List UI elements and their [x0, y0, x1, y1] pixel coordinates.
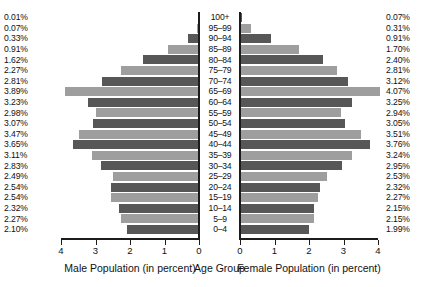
age-group-label-70–74: 70–74 — [199, 77, 241, 86]
center-axis-right — [239, 12, 241, 238]
age-group-label-5–9: 5–9 — [199, 215, 241, 224]
female-value-label-70–74: 3.12% — [386, 77, 410, 86]
female-axis-title: Female Population (in percent) — [199, 262, 419, 274]
bar-male-40–44 — [73, 140, 199, 149]
bar-male-15–19 — [111, 193, 199, 202]
bar-male-75–79 — [121, 66, 199, 75]
male-axis-tick-label-2: 2 — [123, 246, 137, 256]
male-value-label-95–99: 0.07% — [4, 24, 28, 33]
age-group-label-0–4: 0–4 — [199, 225, 241, 234]
bar-female-80–84 — [240, 55, 323, 64]
female-value-label-75–79: 2.81% — [386, 66, 410, 75]
bar-female-90–94 — [240, 34, 271, 43]
female-value-label-5–9: 2.15% — [386, 215, 410, 224]
bar-female-30–34 — [240, 161, 342, 170]
bar-female-60–64 — [240, 98, 352, 107]
bar-female-65–69 — [240, 87, 380, 96]
male-value-label-10–14: 2.32% — [4, 204, 28, 213]
bar-female-0–4 — [240, 225, 309, 234]
bar-female-25–29 — [240, 172, 327, 181]
bar-female-70–74 — [240, 77, 348, 86]
age-group-label-30–34: 30–34 — [199, 162, 241, 171]
age-group-label-100+: 100+ — [199, 13, 241, 22]
age-group-label-90–94: 90–94 — [199, 34, 241, 43]
bar-female-55–59 — [240, 108, 341, 117]
bar-female-20–24 — [240, 183, 320, 192]
bar-male-65–69 — [65, 87, 199, 96]
male-value-label-45–49: 3.47% — [4, 130, 28, 139]
bar-male-55–59 — [96, 108, 199, 117]
age-group-label-95–99: 95–99 — [199, 24, 241, 33]
bar-male-45–49 — [79, 130, 199, 139]
female-value-label-90–94: 0.91% — [386, 34, 410, 43]
male-axis-tick-label-4: 4 — [54, 246, 68, 256]
male-value-label-100+: 0.01% — [4, 13, 28, 22]
age-group-label-80–84: 80–84 — [199, 56, 241, 65]
bar-female-15–19 — [240, 193, 318, 202]
female-value-label-20–24: 2.32% — [386, 183, 410, 192]
age-group-label-45–49: 45–49 — [199, 130, 241, 139]
age-group-label-25–29: 25–29 — [199, 172, 241, 181]
male-value-label-60–64: 3.23% — [4, 98, 28, 107]
bar-male-80–84 — [143, 55, 199, 64]
age-group-label-50–54: 50–54 — [199, 119, 241, 128]
male-value-label-55–59: 2.98% — [4, 109, 28, 118]
age-group-label-10–14: 10–14 — [199, 204, 241, 213]
bar-male-20–24 — [111, 183, 199, 192]
bar-female-5–9 — [240, 214, 314, 223]
female-value-label-50–54: 3.05% — [386, 119, 410, 128]
male-value-label-5–9: 2.27% — [4, 215, 28, 224]
male-value-label-30–34: 2.83% — [4, 162, 28, 171]
bar-male-50–54 — [93, 119, 199, 128]
female-value-label-95–99: 0.31% — [386, 24, 410, 33]
bar-male-60–64 — [88, 98, 199, 107]
female-value-label-25–29: 2.53% — [386, 172, 410, 181]
female-value-label-0–4: 1.99% — [386, 225, 410, 234]
age-group-label-85–89: 85–89 — [199, 45, 241, 54]
center-axis-left — [198, 12, 200, 238]
male-value-label-65–69: 3.89% — [4, 87, 28, 96]
male-value-label-85–89: 0.91% — [4, 45, 28, 54]
male-value-label-25–29: 2.49% — [4, 172, 28, 181]
bar-female-50–54 — [240, 119, 345, 128]
bar-male-5–9 — [121, 214, 199, 223]
male-value-label-75–79: 2.27% — [4, 66, 28, 75]
bar-female-95–99 — [240, 24, 251, 33]
bar-male-70–74 — [102, 77, 199, 86]
bar-male-0–4 — [127, 225, 199, 234]
male-value-label-0–4: 2.10% — [4, 225, 28, 234]
male-value-label-40–44: 3.65% — [4, 140, 28, 149]
bar-female-45–49 — [240, 130, 361, 139]
bar-female-75–79 — [240, 66, 337, 75]
female-axis-tick-label-2: 2 — [302, 246, 316, 256]
female-axis-tick-label-4: 4 — [371, 246, 385, 256]
male-axis-tick-label-0: 0 — [192, 246, 206, 256]
age-group-label-15–19: 15–19 — [199, 193, 241, 202]
male-axis-tick-label-3: 3 — [89, 246, 103, 256]
bar-female-85–89 — [240, 45, 299, 54]
bar-male-85–89 — [168, 45, 199, 54]
age-group-label-35–39: 35–39 — [199, 151, 241, 160]
female-value-label-85–89: 1.70% — [386, 45, 410, 54]
female-value-label-80–84: 2.40% — [386, 56, 410, 65]
female-axis-tick-label-0: 0 — [233, 246, 247, 256]
age-group-label-55–59: 55–59 — [199, 109, 241, 118]
male-value-label-50–54: 3.07% — [4, 119, 28, 128]
female-value-label-15–19: 2.27% — [386, 193, 410, 202]
female-value-label-10–14: 2.15% — [386, 204, 410, 213]
age-group-label-75–79: 75–79 — [199, 66, 241, 75]
female-axis-tick-label-3: 3 — [337, 246, 351, 256]
bar-male-10–14 — [119, 204, 199, 213]
bar-male-30–34 — [101, 161, 199, 170]
bar-female-35–39 — [240, 151, 352, 160]
male-axis-tick-label-1: 1 — [158, 246, 172, 256]
male-value-label-35–39: 3.11% — [4, 151, 27, 160]
bar-female-10–14 — [240, 204, 314, 213]
male-value-label-20–24: 2.54% — [4, 183, 28, 192]
bar-male-25–29 — [113, 172, 199, 181]
female-value-label-55–59: 2.94% — [386, 109, 410, 118]
female-value-label-40–44: 3.76% — [386, 140, 410, 149]
population-pyramid-chart: 0.01%0.07%100+0.07%0.31%95–990.33%0.91%9… — [0, 0, 441, 287]
female-value-label-100+: 0.07% — [386, 13, 410, 22]
female-value-label-45–49: 3.51% — [386, 130, 410, 139]
